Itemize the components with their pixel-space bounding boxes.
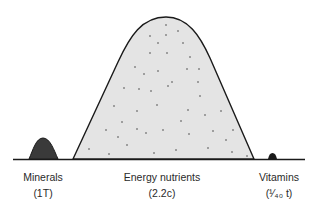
energy-nutrients-amount: (2.2c) [112, 188, 212, 199]
vitamins-amount: (¹⁄₄₀ t) [250, 188, 308, 199]
minerals-amount: (1T) [14, 188, 72, 199]
minerals-label: Minerals [14, 172, 72, 183]
energy-nutrients-label: Energy nutrients [112, 172, 212, 183]
vitamins-pile [268, 153, 277, 159]
energy-nutrients-pile [73, 17, 254, 159]
minerals-pile [29, 138, 58, 159]
vitamins-label: Vitamins [250, 172, 308, 183]
